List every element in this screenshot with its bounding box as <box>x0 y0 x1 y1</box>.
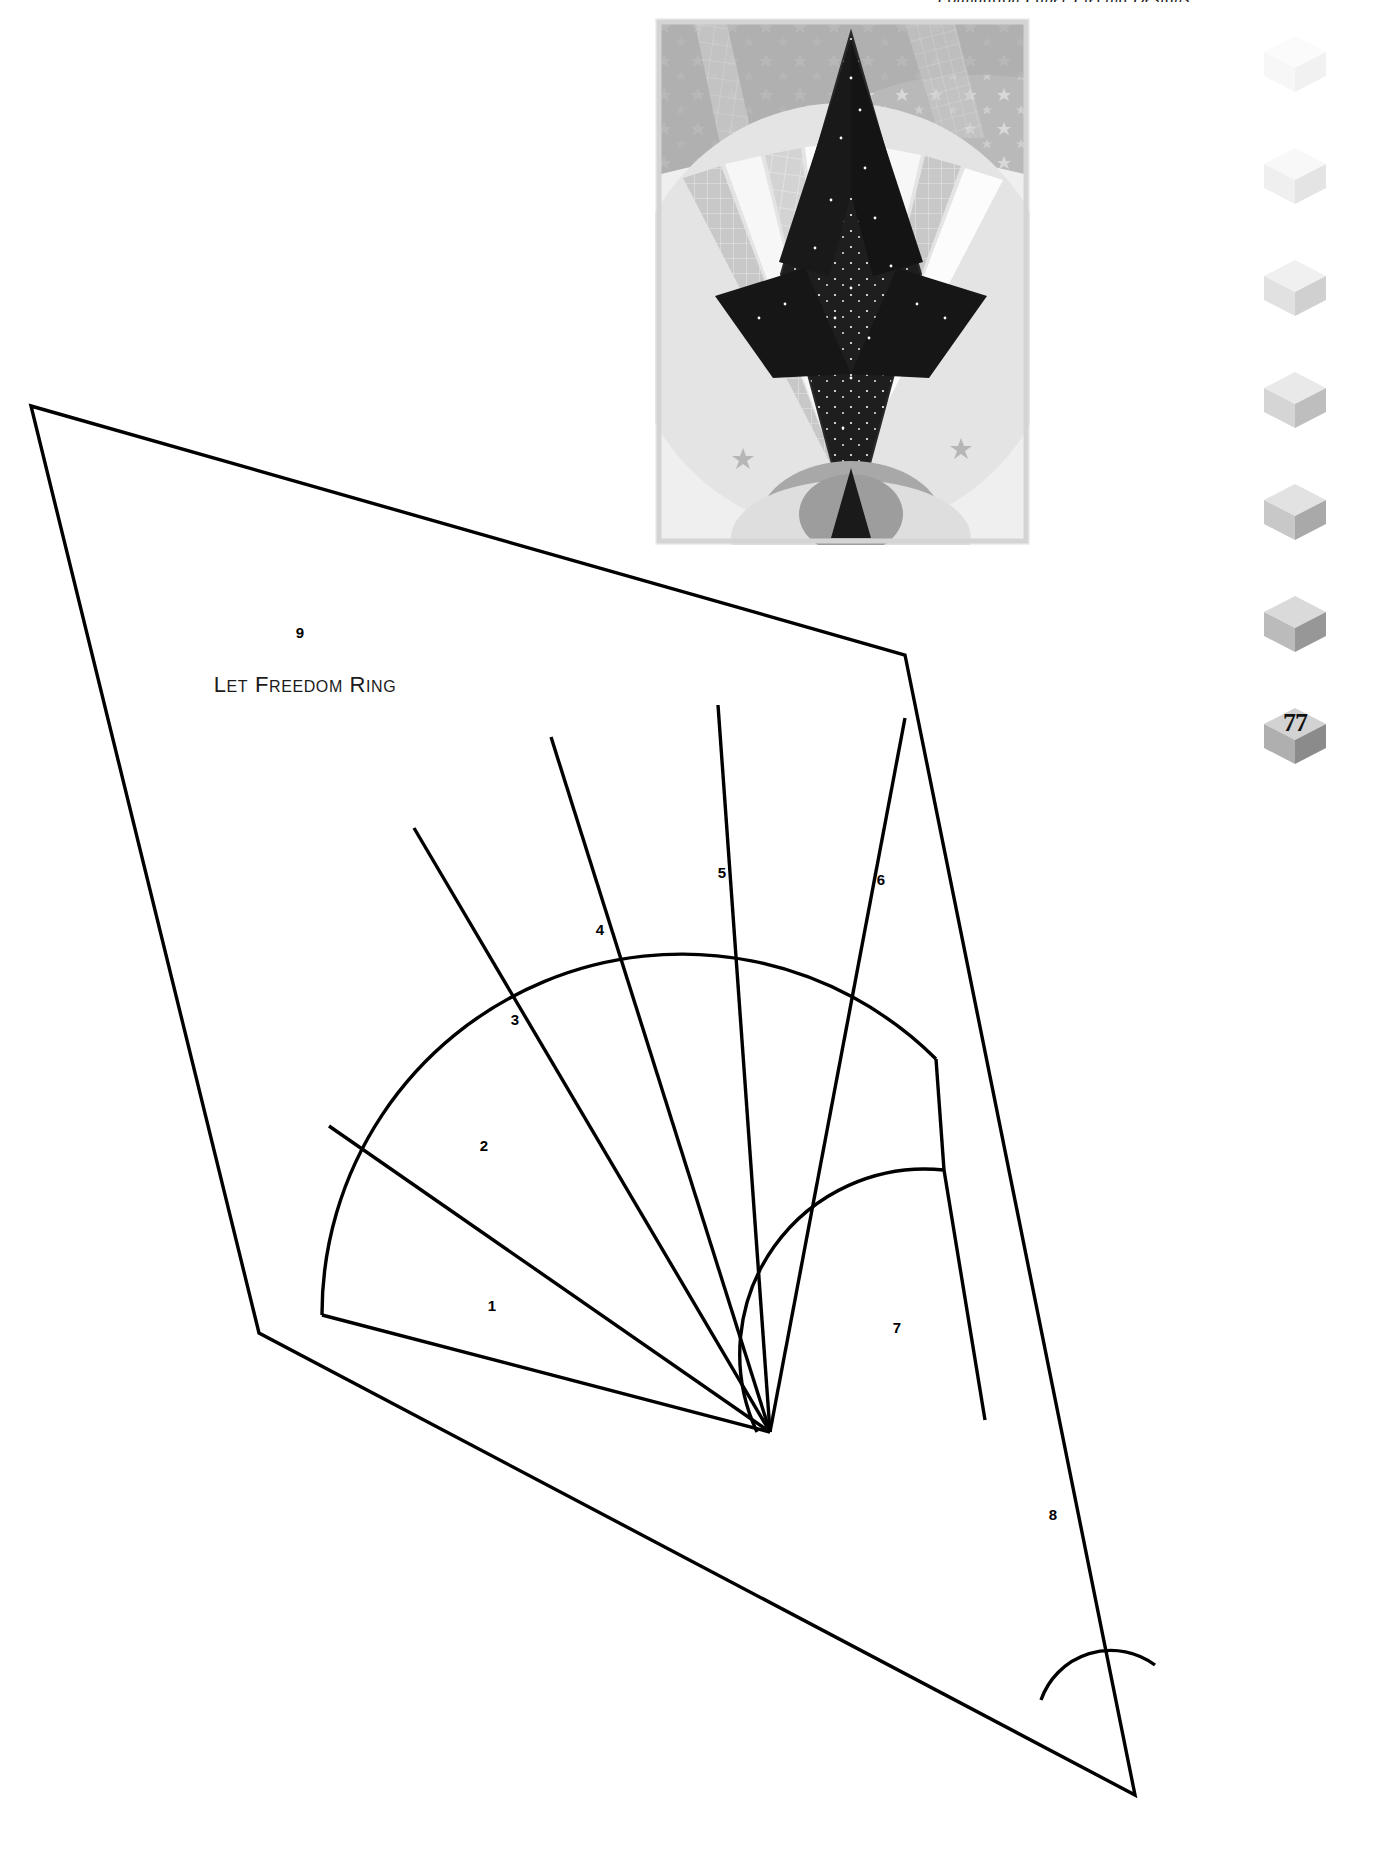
page-cube-6 <box>1258 590 1332 664</box>
page-canvas: Foundation Paper Piecing Designs <box>0 0 1378 1871</box>
page-cube-5 <box>1258 478 1332 552</box>
pattern-drawing <box>0 380 1200 1871</box>
page-marker-cube-column: 77 <box>1258 30 1344 814</box>
pattern-label-6: 6 <box>877 871 885 888</box>
page-number: 77 <box>1258 708 1332 738</box>
page-cube-7: 77 <box>1258 702 1332 776</box>
pattern-title: LET FREEDOM RING <box>214 672 397 698</box>
pattern-label-4: 4 <box>596 921 604 938</box>
pattern-label-2: 2 <box>480 1137 488 1154</box>
pattern-label-9: 9 <box>296 624 304 641</box>
pattern-label-8: 8 <box>1049 1506 1057 1523</box>
running-head: Foundation Paper Piecing Designs <box>0 0 1190 2</box>
page-cube-3 <box>1258 254 1332 328</box>
pattern-label-1: 1 <box>488 1297 496 1314</box>
page-cube-4 <box>1258 366 1332 440</box>
pattern-label-5: 5 <box>718 864 726 881</box>
page-cube-1 <box>1258 30 1332 104</box>
pattern-label-7: 7 <box>893 1319 901 1336</box>
page-cube-2 <box>1258 142 1332 216</box>
pattern-label-3: 3 <box>511 1011 519 1028</box>
